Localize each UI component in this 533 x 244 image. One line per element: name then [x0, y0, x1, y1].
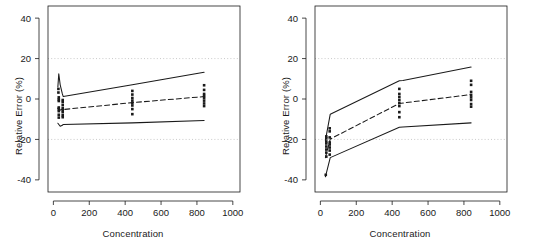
series-line-lower-tolerance-limit — [58, 120, 204, 126]
series-line-mean-relative-error — [58, 97, 204, 111]
data-point — [131, 108, 134, 111]
data-point — [131, 93, 134, 96]
data-point — [131, 102, 134, 105]
y-tick-label-0: 0 — [293, 93, 298, 104]
data-point — [61, 111, 64, 114]
y-axis-title-left: Relative Error (%) — [13, 77, 24, 155]
data-point — [203, 84, 206, 87]
x-tick-label-600: 600 — [153, 207, 169, 218]
data-point — [398, 99, 401, 102]
y-tick-label--40: -40 — [284, 174, 298, 185]
x-tick-label-0: 0 — [318, 207, 323, 218]
data-point — [325, 151, 328, 154]
x-tick-label-800: 800 — [189, 207, 205, 218]
data-point — [61, 116, 64, 119]
data-point — [398, 116, 401, 119]
data-point — [328, 141, 331, 144]
x-tick-label-200: 200 — [348, 207, 364, 218]
data-point — [57, 110, 60, 113]
data-point — [325, 148, 328, 151]
x-axis-title-right: Concentration — [267, 228, 533, 239]
data-point — [325, 145, 328, 148]
series-line-upper-tolerance-limit — [58, 72, 204, 96]
plot-frame — [48, 6, 240, 192]
x-tick-label-400: 400 — [117, 207, 133, 218]
chart-panel-right: -40-200204002004006008001000 Concentrati… — [267, 0, 533, 244]
data-point — [398, 102, 401, 105]
y-axis-title-right: Relative Error (%) — [280, 77, 291, 155]
data-point — [325, 155, 328, 158]
data-point — [398, 111, 401, 114]
data-point — [131, 104, 134, 107]
data-point — [61, 101, 64, 104]
data-point — [57, 116, 60, 119]
data-point — [328, 127, 331, 130]
data-point — [470, 80, 473, 83]
data-point — [398, 93, 401, 96]
data-point — [57, 113, 60, 116]
series-line-lower-tolerance-limit — [325, 123, 471, 177]
data-point — [57, 88, 60, 91]
plot-frame — [315, 6, 507, 192]
data-point — [131, 113, 134, 116]
plot-area-left: -40-200204002004006008001000 — [0, 0, 266, 244]
data-point — [328, 146, 331, 149]
data-point — [398, 88, 401, 91]
y-tick-label-0: 0 — [26, 93, 31, 104]
data-point — [398, 105, 401, 108]
y-tick-label--40: -40 — [17, 174, 31, 185]
data-point — [131, 90, 134, 93]
data-point — [57, 91, 60, 94]
data-point — [325, 135, 328, 138]
data-point — [203, 102, 206, 105]
data-point — [470, 103, 473, 106]
chart-panel-left: -40-200204002004006008001000 Concentrati… — [0, 0, 266, 244]
data-point — [325, 140, 328, 143]
x-tick-label-800: 800 — [456, 207, 472, 218]
data-point — [203, 99, 206, 102]
x-tick-label-1000: 1000 — [489, 207, 510, 218]
data-point — [61, 104, 64, 107]
y-tick-label-20: 20 — [20, 53, 31, 64]
data-point — [131, 99, 134, 102]
data-point — [328, 130, 331, 133]
data-point — [324, 174, 327, 177]
x-tick-label-600: 600 — [420, 207, 436, 218]
data-point — [57, 100, 60, 103]
data-point — [203, 105, 206, 108]
x-tick-label-1000: 1000 — [222, 207, 243, 218]
data-point — [470, 105, 473, 108]
data-point — [470, 84, 473, 87]
data-point — [470, 99, 473, 102]
y-tick-label-40: 40 — [287, 13, 298, 24]
data-point — [328, 149, 331, 152]
x-tick-label-400: 400 — [384, 207, 400, 218]
data-point — [203, 89, 206, 92]
data-point — [328, 136, 331, 139]
data-point — [470, 94, 473, 97]
data-point — [470, 96, 473, 99]
data-point — [470, 91, 473, 94]
y-tick-label-40: 40 — [20, 13, 31, 24]
x-tick-label-200: 200 — [81, 207, 97, 218]
data-point — [398, 96, 401, 99]
x-tick-label-0: 0 — [51, 207, 56, 218]
plot-area-right: -40-200204002004006008001000 — [267, 0, 533, 244]
x-axis-title-left: Concentration — [0, 228, 266, 239]
data-point — [131, 97, 134, 100]
data-point — [203, 97, 206, 100]
y-tick-label-20: 20 — [287, 53, 298, 64]
figure-two-panel-relative-error: -40-200204002004006008001000 Concentrati… — [0, 0, 533, 244]
data-point — [328, 153, 331, 156]
